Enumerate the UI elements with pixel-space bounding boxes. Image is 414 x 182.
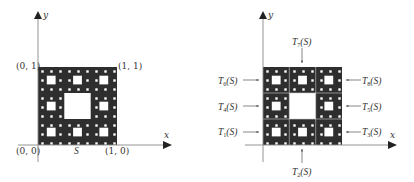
map-label-t8: T8(S) bbox=[346, 76, 381, 87]
svg-text:T7(S): T7(S) bbox=[292, 37, 311, 48]
map-label-t3: T3(S) bbox=[346, 127, 381, 138]
x-axis-arrow-icon bbox=[163, 141, 172, 149]
corner-label-0-1: (0, 1) bbox=[16, 61, 40, 71]
sierpinski-carpet-s bbox=[38, 67, 117, 145]
y-axis-label: y bbox=[42, 10, 49, 20]
y-axis-arrow-icon bbox=[34, 11, 42, 19]
right-panel: y x T6(S) T4(S) T1(S) T8(S) T5(S) T3(S) bbox=[218, 10, 397, 178]
sierpinski-carpet-subdivided bbox=[263, 67, 342, 145]
x-axis-label: x bbox=[390, 130, 395, 140]
figure-canvas: y x (0, 1) (1, 1) (0, 0) (1, 0) S y x bbox=[0, 0, 414, 182]
svg-text:T2(S): T2(S) bbox=[292, 167, 311, 178]
map-label-t7: T7(S) bbox=[292, 37, 311, 63]
map-label-t5: T5(S) bbox=[346, 102, 381, 113]
svg-text:T6(S): T6(S) bbox=[218, 76, 237, 87]
svg-text:T8(S): T8(S) bbox=[362, 76, 381, 87]
x-axis-arrow-icon bbox=[388, 141, 397, 149]
svg-text:T1(S): T1(S) bbox=[218, 127, 237, 138]
map-label-t1: T1(S) bbox=[218, 127, 259, 138]
corner-label-1-1: (1, 1) bbox=[118, 61, 142, 71]
map-label-t2: T2(S) bbox=[292, 149, 311, 178]
y-axis-arrow-icon bbox=[259, 11, 267, 19]
x-axis-label: x bbox=[164, 130, 169, 140]
svg-text:T4(S): T4(S) bbox=[218, 102, 237, 113]
map-label-t6: T6(S) bbox=[218, 76, 259, 87]
y-axis-label: y bbox=[267, 10, 274, 20]
corner-label-1-0: (1, 0) bbox=[105, 146, 129, 156]
set-label-s: S bbox=[74, 146, 79, 156]
svg-text:T3(S): T3(S) bbox=[362, 127, 381, 138]
map-label-t4: T4(S) bbox=[218, 102, 259, 113]
svg-text:T5(S): T5(S) bbox=[362, 102, 381, 113]
corner-label-0-0: (0, 0) bbox=[16, 146, 40, 156]
left-panel: y x (0, 1) (1, 1) (0, 0) (1, 0) S bbox=[16, 10, 172, 162]
